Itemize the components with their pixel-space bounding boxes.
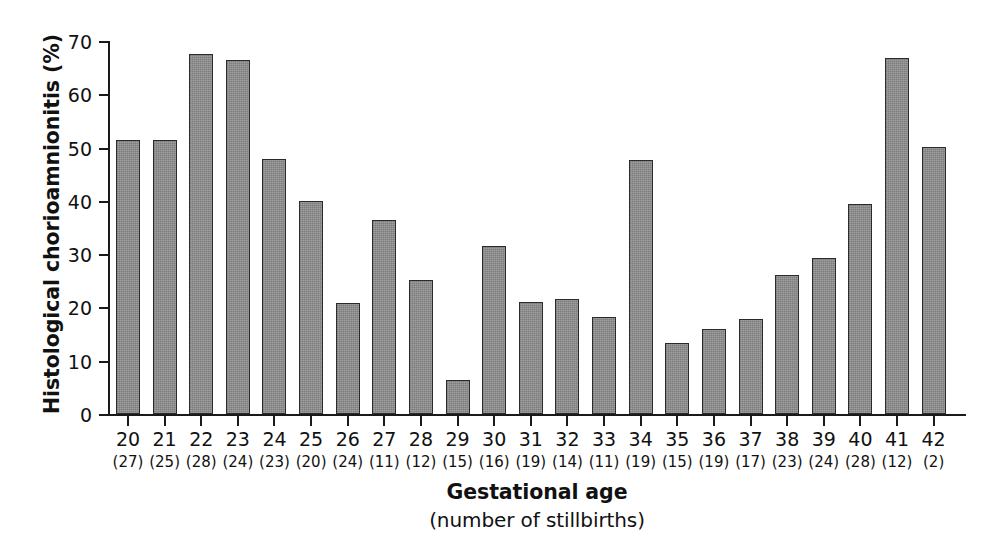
- y-axis-tick: 30: [99, 254, 108, 256]
- x-axis-tick: [566, 416, 568, 426]
- x-axis-tick: [493, 416, 495, 426]
- y-axis-tick: 60: [99, 94, 108, 96]
- x-axis-tick: [676, 416, 678, 426]
- x-axis-tick: [237, 416, 239, 426]
- y-axis-tick: 0: [99, 414, 108, 416]
- y-axis-tick-label: 30: [68, 246, 92, 265]
- chart-figure: Histological chorioamnionitis (%) 010203…: [0, 0, 996, 552]
- bar: [739, 319, 763, 414]
- bar: [848, 204, 872, 414]
- bar: [189, 54, 213, 414]
- x-axis-title-main: Gestational age: [108, 481, 966, 505]
- y-axis-tick: 40: [99, 201, 108, 203]
- y-axis-tick: 50: [99, 148, 108, 150]
- bar: [409, 280, 433, 414]
- plot-area: 010203040506070 20(27)21(25)22(28)23(24)…: [108, 41, 966, 415]
- bar: [555, 299, 579, 414]
- x-axis-tick: [383, 416, 385, 426]
- x-axis-tick: [200, 416, 202, 426]
- y-axis-tick-label: 10: [68, 352, 92, 371]
- bar: [702, 329, 726, 414]
- x-axis-tick: [933, 416, 935, 426]
- y-axis-tick-label: 0: [80, 406, 92, 425]
- y-axis-tick-label: 60: [68, 86, 92, 105]
- bar: [116, 140, 140, 414]
- x-axis-tick: [273, 416, 275, 426]
- bar: [519, 302, 543, 414]
- x-axis-tick: [127, 416, 129, 426]
- bar: [812, 258, 836, 414]
- y-axis-tick-label: 70: [68, 33, 92, 52]
- bar: [922, 147, 946, 414]
- bar: [629, 160, 653, 414]
- x-axis-tick-label-group: 42(2): [912, 430, 956, 470]
- y-axis-tick: 10: [99, 361, 108, 363]
- bar: [372, 220, 396, 414]
- bar: [446, 380, 470, 414]
- x-axis-tick: [640, 416, 642, 426]
- bar: [336, 303, 360, 414]
- x-axis-tick: [530, 416, 532, 426]
- bar: [482, 246, 506, 414]
- x-axis-tick-count-label: (2): [912, 455, 956, 470]
- y-axis-tick: 20: [99, 307, 108, 309]
- x-axis-tick: [164, 416, 166, 426]
- y-axis-tick: 70: [99, 41, 108, 43]
- x-axis-title-sub: (number of stillbirths): [108, 509, 966, 532]
- x-axis-tick: [713, 416, 715, 426]
- x-axis-tick-label: 42: [912, 430, 956, 449]
- bar: [775, 275, 799, 414]
- bar: [592, 317, 616, 414]
- bar: [226, 60, 250, 414]
- x-axis-tick: [896, 416, 898, 426]
- x-axis-tick: [750, 416, 752, 426]
- x-axis-tick: [420, 416, 422, 426]
- x-axis-tick: [786, 416, 788, 426]
- y-axis-tick-label: 20: [68, 299, 92, 318]
- y-axis-tick-label: 50: [68, 139, 92, 158]
- x-axis-tick: [310, 416, 312, 426]
- x-axis-tick: [859, 416, 861, 426]
- x-axis-tick: [457, 416, 459, 426]
- x-axis-tick: [347, 416, 349, 426]
- x-axis-tick: [823, 416, 825, 426]
- bar: [153, 140, 177, 414]
- x-axis-title: Gestational age (number of stillbirths): [108, 481, 966, 532]
- y-axis-spine: [108, 41, 110, 415]
- bar: [262, 159, 286, 414]
- bar: [885, 58, 909, 414]
- y-axis-tick-label: 40: [68, 192, 92, 211]
- x-axis-tick: [603, 416, 605, 426]
- bar: [299, 201, 323, 414]
- bar: [665, 343, 689, 414]
